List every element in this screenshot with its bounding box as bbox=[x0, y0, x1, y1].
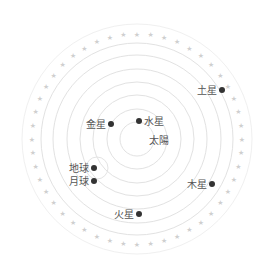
star-icon: ★ bbox=[51, 199, 57, 207]
star-icon: ★ bbox=[208, 61, 214, 69]
star-icon: ★ bbox=[120, 31, 126, 39]
star-icon: ★ bbox=[198, 52, 204, 60]
star-icon: ★ bbox=[70, 52, 76, 60]
star-icon: ★ bbox=[186, 45, 192, 53]
star-icon: ★ bbox=[217, 72, 223, 80]
planet-dot-icon bbox=[136, 118, 142, 124]
star-icon: ★ bbox=[29, 136, 35, 144]
star-icon: ★ bbox=[43, 83, 49, 91]
star-icon: ★ bbox=[238, 122, 244, 130]
star-icon: ★ bbox=[235, 108, 241, 116]
star-icon: ★ bbox=[231, 95, 237, 103]
orbit-rings bbox=[22, 24, 252, 254]
star-icon: ★ bbox=[32, 163, 38, 171]
planet-6: 土星 bbox=[197, 84, 225, 96]
star-icon: ★ bbox=[186, 226, 192, 234]
star-icon: ★ bbox=[60, 61, 66, 69]
star-icon: ★ bbox=[94, 38, 100, 46]
star-icon: ★ bbox=[134, 241, 140, 249]
star-icon: ★ bbox=[37, 176, 43, 184]
planet-1: 金星 bbox=[86, 118, 114, 130]
orbit-ring-6 bbox=[53, 55, 221, 223]
planet-label: 月球 bbox=[69, 175, 89, 187]
star-icon: ★ bbox=[37, 95, 43, 103]
star-icon: ★ bbox=[235, 163, 241, 171]
star-icon: ★ bbox=[161, 34, 167, 42]
planet-dot-icon bbox=[136, 211, 142, 217]
star-icon: ★ bbox=[198, 219, 204, 227]
planet-label: 火星 bbox=[114, 209, 134, 220]
star-icon: ★ bbox=[81, 226, 87, 234]
star-icon: ★ bbox=[231, 176, 237, 184]
star-icon: ★ bbox=[94, 233, 100, 241]
planet-label: 土星 bbox=[197, 84, 217, 96]
star-icon: ★ bbox=[30, 122, 36, 130]
planet-dot-icon bbox=[91, 178, 97, 184]
planet-dot-icon bbox=[91, 165, 97, 171]
planet-0: 水星 bbox=[136, 116, 164, 127]
star-icon: ★ bbox=[225, 83, 231, 91]
planet-2: 地球 bbox=[69, 162, 97, 174]
star-icon: ★ bbox=[161, 237, 167, 245]
star-icon: ★ bbox=[148, 240, 154, 248]
star-icon: ★ bbox=[51, 72, 57, 80]
star-icon: ★ bbox=[239, 136, 245, 144]
planet-3: 月球 bbox=[69, 175, 97, 187]
orbit-ring-5 bbox=[67, 69, 207, 209]
star-icon: ★ bbox=[30, 149, 36, 157]
star-icon: ★ bbox=[43, 188, 49, 196]
solar-system-diagram: ★★★★★★★★★★★★★★★★★★★★★★★★★★★★★★★★★★★★★★★★… bbox=[0, 0, 271, 278]
orbit-ring-7 bbox=[41, 43, 233, 235]
star-icon: ★ bbox=[174, 233, 180, 241]
star-icon: ★ bbox=[148, 31, 154, 39]
sun-label: 太陽 bbox=[149, 134, 169, 146]
star-icon: ★ bbox=[208, 210, 214, 218]
star-icon: ★ bbox=[32, 108, 38, 116]
star-icon: ★ bbox=[174, 38, 180, 46]
star-icon: ★ bbox=[225, 188, 231, 196]
star-icon: ★ bbox=[107, 34, 113, 42]
planet-label: 木星 bbox=[187, 179, 207, 190]
planet-label: 地球 bbox=[69, 162, 89, 174]
planet-4: 火星 bbox=[114, 209, 142, 220]
outer-ring bbox=[22, 24, 252, 254]
planet-label: 水星 bbox=[144, 116, 164, 127]
star-icon: ★ bbox=[134, 31, 140, 39]
planet-label: 金星 bbox=[86, 118, 106, 130]
star-icon: ★ bbox=[70, 219, 76, 227]
planet-dot-icon bbox=[219, 87, 225, 93]
star-icon: ★ bbox=[238, 149, 244, 157]
star-icon: ★ bbox=[60, 210, 66, 218]
planet-dot-icon bbox=[209, 181, 215, 187]
star-icon: ★ bbox=[120, 240, 126, 248]
star-icon: ★ bbox=[81, 45, 87, 53]
star-icon: ★ bbox=[217, 199, 223, 207]
star-icon: ★ bbox=[107, 237, 113, 245]
planet-dot-icon bbox=[108, 121, 114, 127]
